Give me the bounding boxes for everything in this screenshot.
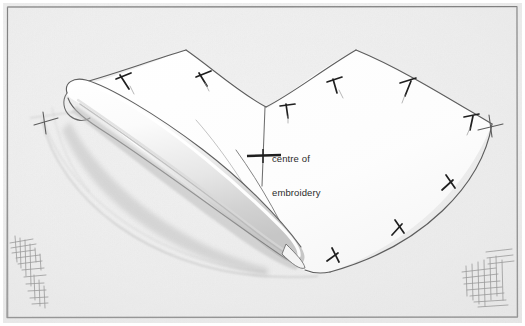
corner-scribble-right [462,249,514,307]
corner-scribbles-layer [0,0,525,326]
corner-scribble-left [10,236,48,308]
pattern-diagram-scene: centre of embroidery [0,0,525,326]
illustration-root: centre of embroidery [0,0,525,326]
